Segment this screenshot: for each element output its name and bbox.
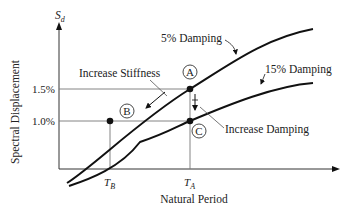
stiffness-leader — [150, 80, 167, 96]
increase-damping-label: Increase Damping — [225, 123, 309, 136]
point-b-label: B — [120, 104, 134, 118]
damping-leader — [200, 107, 224, 128]
y-tick-1-5: 1.5% — [32, 83, 55, 95]
stiffness-arrow — [146, 92, 165, 108]
y-axis-symbol: Sd — [55, 9, 66, 24]
svg-text:A: A — [186, 66, 194, 78]
curve-15pct-label: 15% Damping — [265, 63, 332, 76]
spectral-displacement-diagram: A B C 5% Damping 15% Damping Increase St… — [0, 0, 347, 210]
x-tick-tb: TB — [104, 176, 115, 191]
point-c — [187, 118, 194, 125]
increase-stiffness-label: Increase Stiffness — [79, 67, 161, 79]
svg-text:C: C — [195, 125, 202, 137]
curve-5pct-leader — [225, 40, 236, 54]
curve-5pct-label: 5% Damping — [161, 32, 222, 45]
x-axis-arrow-icon — [332, 166, 340, 172]
point-a — [187, 86, 194, 93]
y-axis-label: Spectral Displacement — [9, 59, 22, 164]
x-tick-ta: TA — [184, 176, 195, 191]
axes — [56, 22, 340, 172]
point-a-label: A — [183, 65, 197, 79]
x-axis-label: Natural Period — [160, 193, 228, 205]
point-b — [107, 118, 114, 125]
point-c-label: C — [192, 124, 206, 138]
y-tick-1-0: 1.0% — [32, 115, 55, 127]
curve-15pct-leader — [261, 74, 265, 84]
svg-text:B: B — [123, 105, 130, 117]
